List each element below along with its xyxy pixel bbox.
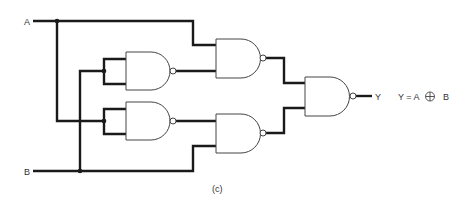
nand-gate-g2: [216, 39, 266, 78]
nand-gate-g1: [126, 52, 176, 90]
junction-dot: [55, 19, 60, 24]
wire-g2-g5: [266, 58, 305, 83]
nand-gate-g3: [126, 102, 176, 140]
junction-dot: [102, 69, 107, 74]
equation-rhs: B: [443, 92, 449, 102]
junction-dot: [102, 119, 107, 124]
crossing-point: [79, 120, 82, 123]
wire-a: [33, 21, 216, 134]
output-label-y: Y: [375, 92, 381, 102]
wire-b: [33, 59, 216, 171]
figure-caption: (c): [212, 184, 223, 194]
nand-gate-g5: [305, 77, 356, 116]
input-label-a: A: [24, 17, 30, 27]
xor-symbol-icon: [426, 92, 435, 101]
circuit-diagram: A B: [0, 0, 468, 209]
junction-dot: [78, 169, 83, 174]
equation-lhs: Y = A: [398, 92, 420, 102]
nand-gate-g4: [216, 114, 266, 153]
wire-g4-g5: [266, 108, 305, 133]
input-label-b: B: [24, 167, 30, 177]
